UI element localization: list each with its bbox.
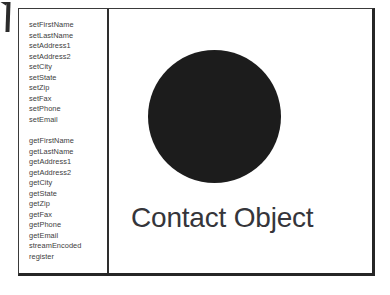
method-item: setZip	[29, 83, 107, 94]
method-item: setEmail	[29, 115, 107, 126]
method-item: setCity	[29, 62, 107, 73]
method-item: getState	[29, 189, 107, 200]
method-item: getLastName	[29, 147, 107, 158]
method-item: getPhone	[29, 220, 107, 231]
method-item: getEmail	[29, 231, 107, 242]
object-label: Contact Object	[131, 202, 313, 234]
method-item: setPhone	[29, 104, 107, 115]
method-item: setAddress2	[29, 52, 107, 63]
method-list-pane: setFirstName setLastName setAddress1 set…	[19, 9, 109, 273]
method-item: getFax	[29, 210, 107, 221]
method-item: setAddress1	[29, 41, 107, 52]
method-item: getAddress2	[29, 168, 107, 179]
method-item: register	[29, 252, 107, 263]
method-item: getZip	[29, 199, 107, 210]
page-crop-mark-stroke	[5, 2, 10, 32]
method-item: setFirstName	[29, 20, 107, 31]
object-illustration-pane: Contact Object	[111, 9, 372, 273]
method-item: streamEncoded	[29, 241, 107, 252]
method-item: setLastName	[29, 31, 107, 42]
method-item: getFirstName	[29, 136, 107, 147]
method-item: setFax	[29, 94, 107, 105]
method-item: setState	[29, 73, 107, 84]
contact-object-diagram: setFirstName setLastName setAddress1 set…	[18, 8, 375, 276]
method-list: setFirstName setLastName setAddress1 set…	[29, 20, 107, 263]
method-item: getAddress1	[29, 157, 107, 168]
method-item: getCity	[29, 178, 107, 189]
page-crop-mark	[0, 2, 12, 32]
method-group-separator	[29, 125, 107, 136]
object-circle-icon	[148, 50, 281, 183]
